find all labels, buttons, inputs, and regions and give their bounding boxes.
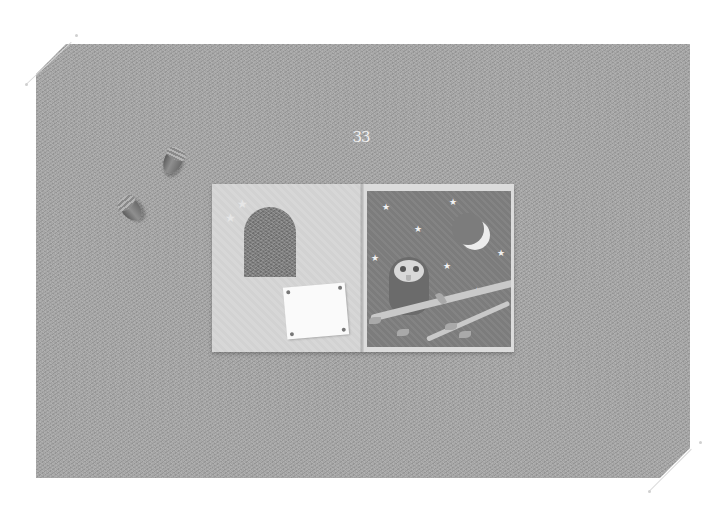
owl-eye [400, 266, 406, 272]
left-page: ★ ★ [212, 184, 362, 352]
star-icon: ★ [371, 254, 379, 263]
right-page: ★ ★ ★ ★ ★ ★ ★ [362, 184, 514, 352]
crop-mark-dot [75, 34, 78, 37]
leaf [397, 329, 409, 336]
pinned-note [283, 282, 349, 339]
picture-book: ★ ★ ★ ★ ★ ★ ★ ★ ★ [212, 184, 514, 352]
leaf [445, 323, 457, 330]
crop-mark-dot [648, 490, 651, 493]
star-icon: ★ [449, 198, 457, 207]
page-number: 33 [346, 128, 376, 146]
star-icon: ★ [237, 198, 248, 210]
star-icon: ★ [497, 249, 505, 258]
window-cutout [244, 207, 296, 277]
owl-eye [413, 266, 419, 272]
leaf [459, 331, 471, 338]
pin-icon [342, 327, 346, 331]
night-sky-panel: ★ ★ ★ ★ ★ ★ ★ [367, 191, 511, 347]
star-icon: ★ [443, 262, 451, 271]
crop-mark-dot [25, 83, 28, 86]
star-icon: ★ [414, 225, 422, 234]
crop-mark-dot [699, 441, 702, 444]
leaf [369, 317, 381, 324]
pin-icon [338, 286, 342, 290]
star-icon: ★ [382, 203, 390, 212]
book-gutter [360, 184, 364, 352]
pin-icon [290, 332, 294, 336]
star-icon: ★ [225, 212, 236, 224]
moon-shadow [452, 213, 484, 245]
owl-beak [406, 275, 411, 281]
pin-icon [286, 290, 290, 294]
